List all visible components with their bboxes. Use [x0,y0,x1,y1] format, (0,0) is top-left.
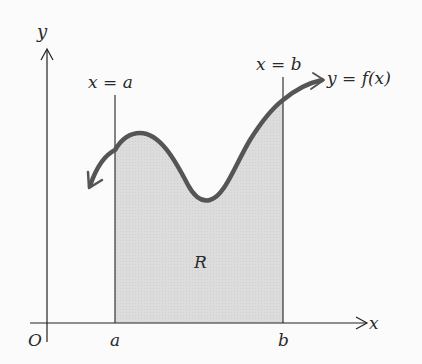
a-tick-label: a [110,330,120,350]
area-under-curve-diagram: y x O x = a x = b a b y = f(x) R [0,0,422,364]
origin-label: O [28,330,42,350]
y-axis-label: y [36,21,48,42]
right-bound-label: x = b [256,54,302,74]
b-tick-label: b [278,330,289,350]
region-label: R [193,252,207,272]
left-bound-label: x = a [88,72,133,92]
x-axis-label: x [369,313,379,333]
curve-label: y = f(x) [326,68,391,88]
